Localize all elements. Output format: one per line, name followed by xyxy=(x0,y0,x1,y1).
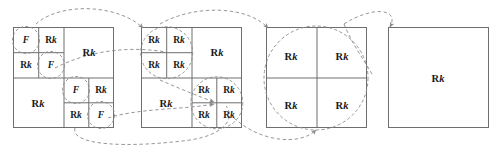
arrow-bottom-2-to-3 xyxy=(234,118,316,140)
square-1-group xyxy=(13,27,115,129)
arrow-top-3-to-4 xyxy=(344,12,392,27)
arrow-square3-right-tail xyxy=(344,24,372,74)
arrow-mid2-1-to-2 xyxy=(160,80,214,102)
quadtree-refinement-figure xyxy=(0,0,499,154)
square-1-circle-F-br2 xyxy=(88,102,115,129)
arrow-bottom-1-to-2 xyxy=(108,104,214,118)
arrow-mid-1-to-2 xyxy=(55,49,166,68)
arrow-top-2-to-3 xyxy=(160,10,268,28)
square-1-circle-F-br xyxy=(63,77,90,104)
square-2-group xyxy=(141,27,243,129)
square-4-group xyxy=(389,28,489,128)
arrow-top-1-to-2 xyxy=(36,9,143,28)
square-4-outline xyxy=(389,28,489,128)
arrow-bottom-loop-1 xyxy=(75,106,230,144)
connector-arrows xyxy=(36,9,392,145)
square-1-circle-F-tl xyxy=(13,27,40,54)
